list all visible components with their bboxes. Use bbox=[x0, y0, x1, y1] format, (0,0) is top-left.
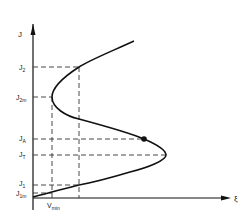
label-jt: JT bbox=[19, 151, 26, 160]
dashed-guides bbox=[33, 67, 166, 198]
label-j1: J1 bbox=[19, 180, 26, 189]
x-axis-label: ξ bbox=[234, 194, 238, 203]
potential-curve-diagram: J ξ J2 J2m JA JT bbox=[0, 0, 251, 223]
label-ja: JA bbox=[19, 135, 27, 144]
x-axis-arrow-icon bbox=[221, 196, 231, 201]
y-axis-arrow-icon bbox=[31, 24, 36, 35]
label-j2m: J2m bbox=[16, 94, 26, 103]
ja-point-marker bbox=[141, 136, 147, 142]
label-j2: J2 bbox=[19, 64, 26, 73]
potential-curve bbox=[33, 41, 166, 197]
label-vmin: Vmin bbox=[47, 202, 60, 211]
y-axis-label: J bbox=[18, 30, 22, 39]
label-j1m: J1m bbox=[16, 190, 26, 199]
y-level-labels: J2 J2m JA JT J1 J1m bbox=[16, 64, 27, 199]
